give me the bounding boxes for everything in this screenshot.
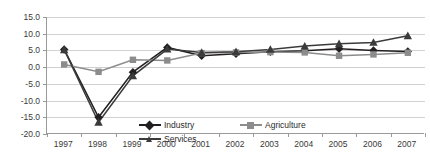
legend-marker-square-icon [240,120,262,130]
data-point-marker [164,57,170,63]
legend-label-agriculture: Agriculture [265,120,306,130]
y-axis-label: 5.0 [0,45,40,55]
data-point-marker [130,57,136,63]
y-axis-label: -15.0 [0,112,40,122]
series-layer [47,17,425,134]
y-axis-label: 0.0 [0,62,40,72]
y-axis-label: -20.0 [0,129,40,139]
x-axis-tick [425,133,426,137]
x-axis-label: 1997 [54,139,73,149]
legend-item-services: Services [139,134,240,144]
legend-row-2: Services [139,132,335,146]
x-axis-label: 2006 [363,139,382,149]
plot-area [46,17,424,134]
data-point-marker [302,49,308,55]
legend-item-agriculture: Agriculture [240,120,335,130]
data-point-marker [404,32,412,40]
legend-marker-diamond-icon [139,120,161,130]
legend-item-industry: Industry [139,120,240,130]
line-chart: 15.010.05.00.0-5.0-10.0-15.0-20.0 199719… [0,0,430,168]
data-point-marker [336,53,342,59]
y-axis-label: 15.0 [0,12,40,22]
data-point-marker [95,69,101,75]
y-axis-label: -5.0 [0,79,40,89]
data-point-marker [61,61,67,67]
data-point-marker [405,50,411,56]
legend-marker-triangle-icon [139,134,161,144]
chart-legend: Industry Agriculture Services [139,118,335,146]
data-point-marker [370,51,376,57]
x-axis-label: 1998 [88,139,107,149]
y-axis-label: -10.0 [0,96,40,106]
y-axis-label: 10.0 [0,29,40,39]
legend-row-1: Industry Agriculture [139,118,335,132]
legend-label-industry: Industry [164,120,194,130]
legend-label-services: Services [164,134,197,144]
x-axis-label: 2007 [397,139,416,149]
